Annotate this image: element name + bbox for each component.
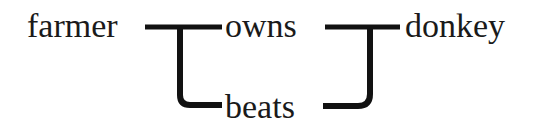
edge-beats-donkey — [323, 27, 370, 106]
connector-lines — [0, 0, 546, 129]
edge-farmer-beats — [180, 27, 222, 105]
